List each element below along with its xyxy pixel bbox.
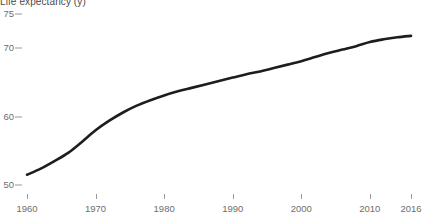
life-expectancy-line-chart: Life expectancy (y) 50607075 19601970198… (0, 0, 423, 220)
plot-area (0, 0, 423, 220)
series-line-life-expectancy (27, 36, 411, 175)
